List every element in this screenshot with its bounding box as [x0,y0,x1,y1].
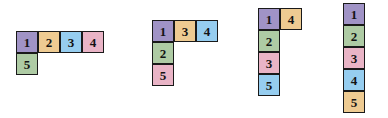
cell-label: 2 [160,46,167,59]
cell-5: 5 [343,91,365,113]
cell-1: 1 [343,3,365,25]
cell-1: 1 [258,8,280,30]
cell-label: 4 [288,12,295,25]
cell-label: 1 [266,12,273,25]
cell-label: 5 [160,68,167,81]
cell-label: 4 [204,24,211,37]
cell-3: 3 [258,52,280,74]
cell-4: 4 [280,8,302,30]
cell-label: 3 [351,51,358,64]
cell-label: 5 [24,57,31,70]
cell-label: 3 [182,24,189,37]
cell-2: 2 [38,31,60,53]
cell-1: 1 [152,20,174,42]
cell-label: 2 [266,34,273,47]
cell-5: 5 [152,64,174,86]
cell-label: 5 [266,78,273,91]
cell-5: 5 [16,53,38,75]
cell-4: 4 [343,69,365,91]
cell-2: 2 [343,25,365,47]
cell-label: 2 [351,29,358,42]
cell-label: 4 [90,35,97,48]
cell-label: 5 [351,95,358,108]
cell-label: 1 [24,35,31,48]
polyomino-diagram: 12345134251423512345 [0,0,388,118]
cell-label: 2 [46,35,53,48]
cell-2: 2 [152,42,174,64]
cell-4: 4 [82,31,104,53]
cell-label: 1 [160,24,167,37]
cell-label: 1 [351,7,358,20]
cell-3: 3 [60,31,82,53]
cell-2: 2 [258,30,280,52]
cell-3: 3 [174,20,196,42]
cell-3: 3 [343,47,365,69]
cell-label: 4 [351,73,358,86]
cell-label: 3 [68,35,75,48]
cell-1: 1 [16,31,38,53]
cell-5: 5 [258,74,280,96]
cell-label: 3 [266,56,273,69]
cell-4: 4 [196,20,218,42]
